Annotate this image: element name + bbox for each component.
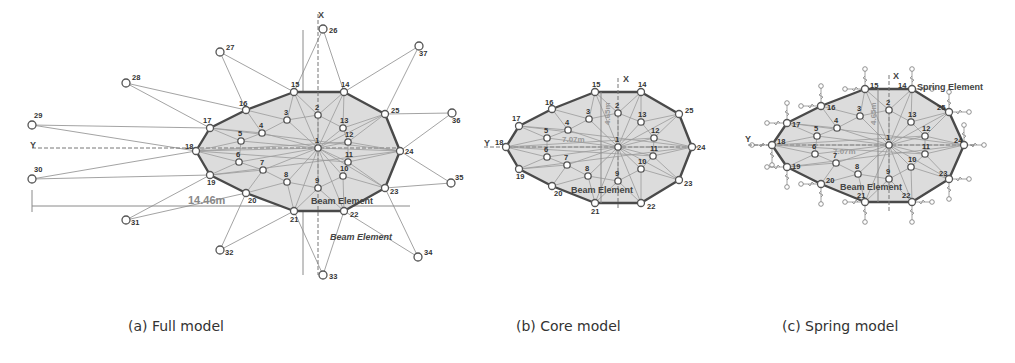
node-label-15: 15	[291, 80, 299, 89]
node-18	[193, 148, 200, 155]
node-label-18: 18	[185, 142, 193, 151]
spring-support-node	[843, 87, 848, 92]
node-label-12: 12	[345, 130, 353, 139]
node-11	[345, 159, 351, 165]
node-15	[862, 86, 869, 93]
x-axis-label: X	[623, 74, 629, 84]
spring-support-node	[819, 202, 824, 207]
node-label-3: 3	[857, 104, 861, 113]
node-label-15: 15	[870, 81, 878, 90]
node-label-31: 31	[131, 218, 139, 227]
node-2	[615, 110, 621, 116]
spring-support-node	[910, 220, 915, 225]
x-axis-label: X	[318, 10, 324, 20]
node-label-25: 25	[937, 103, 945, 112]
node-15	[592, 89, 599, 96]
spring-support-node	[785, 101, 790, 106]
node-label-12: 12	[651, 126, 659, 135]
width-dimension-label: 7.07m	[562, 135, 585, 144]
core-model-diagram: 7.07m4.65mYXBeam Element1234567891011121…	[484, 74, 706, 216]
node-1	[315, 145, 321, 151]
node-5	[238, 138, 244, 144]
node-label-6: 6	[812, 142, 816, 151]
node-18	[503, 144, 510, 151]
node-1	[886, 142, 892, 148]
node-22	[638, 200, 645, 207]
node-label-14: 14	[341, 80, 350, 89]
height-dimension-label: 4.65m	[603, 102, 612, 125]
node-label-13: 13	[638, 110, 646, 119]
node-label-20: 20	[826, 176, 834, 185]
spring-support-node	[967, 177, 972, 182]
node-21	[291, 208, 298, 215]
node-17	[207, 125, 214, 132]
node-label-1: 1	[886, 133, 890, 142]
node-label-19: 19	[516, 172, 524, 181]
node-9	[615, 178, 621, 184]
node-label-15: 15	[592, 80, 600, 89]
node-13	[908, 119, 914, 125]
node-14	[341, 89, 348, 96]
spring-support-node	[863, 220, 868, 225]
spring-support-node	[863, 67, 868, 72]
beam-element-label: Beam Element	[311, 196, 373, 206]
node-label-25: 25	[685, 106, 693, 115]
node-label-6: 6	[236, 150, 240, 159]
spring-support-node	[843, 200, 848, 205]
node-label-24: 24	[405, 147, 414, 156]
node-33	[319, 271, 327, 279]
node-8	[284, 179, 290, 185]
node-21	[592, 200, 599, 207]
spoke-element	[294, 211, 323, 275]
node-12	[922, 133, 928, 139]
node-label-19: 19	[792, 162, 800, 171]
node-label-21: 21	[591, 207, 599, 216]
node-10	[340, 173, 346, 179]
node-label-32: 32	[225, 248, 233, 257]
node-label-25: 25	[391, 106, 399, 115]
spring-support-node	[982, 143, 987, 148]
node-label-13: 13	[340, 116, 348, 125]
node-label-17: 17	[203, 116, 211, 125]
node-label-28: 28	[132, 73, 140, 82]
node-3	[857, 113, 863, 119]
node-label-16: 16	[545, 98, 553, 107]
y-axis-label: Y	[484, 138, 490, 148]
node-label-21: 21	[290, 215, 298, 224]
node-23	[382, 185, 389, 192]
node-label-1: 1	[615, 135, 619, 144]
node-12	[651, 135, 657, 141]
node-35	[447, 179, 455, 187]
y-axis-label: Y	[745, 134, 751, 144]
node-label-27: 27	[226, 43, 234, 52]
node-label-12: 12	[922, 124, 930, 133]
node-label-16: 16	[827, 103, 835, 112]
node-14	[638, 89, 645, 96]
node-label-35: 35	[455, 173, 463, 182]
node-4	[565, 127, 571, 133]
spoke-element	[32, 175, 210, 179]
node-7	[260, 167, 266, 173]
node-6	[544, 154, 550, 160]
spring-model-diagram: 7.07m4.65mYXSpring ElementBeam Element12…	[745, 67, 986, 225]
node-label-24: 24	[954, 136, 963, 145]
node-6	[236, 159, 242, 165]
node-14	[909, 86, 916, 93]
node-label-17: 17	[512, 114, 520, 123]
node-label-11: 11	[345, 150, 353, 159]
node-7	[564, 162, 570, 168]
node-label-18: 18	[495, 138, 503, 147]
caption-full-model: (a) Full model	[128, 318, 224, 334]
node-22	[341, 208, 348, 215]
caption-spring-model: (c) Spring model	[782, 318, 898, 334]
node-label-2: 2	[615, 101, 619, 110]
node-2	[886, 107, 892, 113]
spring-support-node	[967, 110, 972, 115]
node-label-24: 24	[697, 143, 706, 152]
node-6	[812, 151, 818, 157]
node-label-23: 23	[939, 169, 947, 178]
node-13	[638, 119, 644, 125]
spring-support-node	[947, 197, 952, 202]
node-label-2: 2	[315, 103, 319, 112]
node-label-10: 10	[638, 157, 646, 166]
